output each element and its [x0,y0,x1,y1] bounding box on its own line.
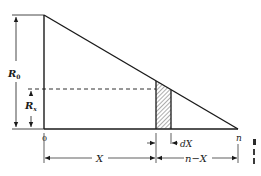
rx-label: Rx [24,100,37,112]
dx-label: dX [180,139,193,149]
x-span-label: X [95,153,104,164]
origin-label: 0 [42,134,47,143]
triangle-shape [44,15,238,129]
r0-label: R0 [7,68,21,80]
diagram-canvas: R0 Rx 0 n dX X n−X [0,0,261,176]
end-n-label: n [236,133,242,143]
dx-dimension [147,133,178,163]
cropped-text-fragments [253,139,256,164]
n-minus-x-label: n−X [185,153,208,164]
